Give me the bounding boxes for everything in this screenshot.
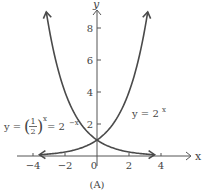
- label-y-equals-half-pow-x: y = (12)x = 2−x: [3, 115, 79, 136]
- fraction-denominator: 2: [30, 127, 35, 136]
- figure-caption: (A): [89, 179, 104, 190]
- exponential-chart: −4−20242468xyy = 2xy = (12)x = 2−x(A): [0, 0, 209, 195]
- x-tick-label: −2: [58, 160, 73, 171]
- x-tick-label: 0: [91, 160, 97, 171]
- labels: −4−20242468xyy = 2xy = (12)x = 2−x(A): [3, 0, 202, 190]
- x-axis-label: x: [195, 150, 202, 163]
- x-tick-label: −4: [26, 160, 41, 171]
- label-part: y =: [3, 121, 21, 132]
- y-axis-label: y: [92, 0, 100, 11]
- y-tick-label: 4: [87, 87, 93, 98]
- label-rhs: = 2: [47, 121, 65, 132]
- label-exponent: −x: [69, 119, 79, 127]
- curve-half-pow-x: [46, 12, 154, 155]
- y-tick-label: 6: [87, 55, 93, 66]
- y-tick-label: 8: [87, 23, 93, 34]
- y-tick-label: 2: [87, 119, 93, 130]
- curve-2-pow-x: [39, 12, 147, 155]
- label-y-equals-2-pow-x: y = 2: [131, 108, 159, 119]
- x-tick-label: 4: [158, 160, 164, 171]
- label-exponent: x: [162, 106, 166, 114]
- fraction-numerator: 1: [30, 117, 35, 126]
- axes: [17, 10, 191, 166]
- x-tick-label: 2: [126, 160, 132, 171]
